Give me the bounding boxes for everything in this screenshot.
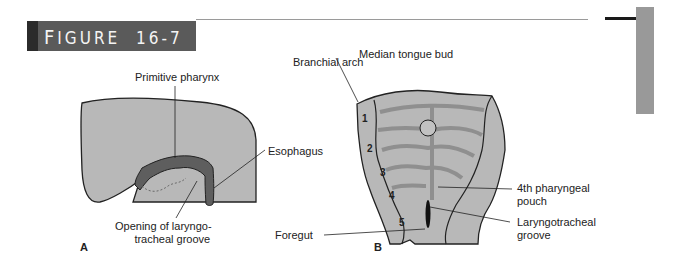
label-branchial-arch: Branchial arch	[293, 56, 363, 69]
arch-number-1: 1	[362, 113, 368, 124]
arch-number-4: 4	[389, 190, 395, 201]
arch-number-3: 3	[380, 167, 386, 178]
label-median-tongue-bud: Median tongue bud	[359, 48, 453, 61]
label-primitive-pharynx: Primitive pharynx	[135, 71, 219, 84]
panel-a-drawing	[81, 86, 265, 218]
arch-number-2: 2	[367, 143, 373, 154]
panel-b-letter: B	[374, 241, 382, 253]
label-foregut: Foregut	[275, 229, 313, 242]
panel-a-letter: A	[80, 241, 88, 253]
label-esophagus: Esophagus	[268, 145, 323, 158]
label-opening-laryngotracheal-groove: Opening of laryngo- tracheal groove	[115, 220, 212, 246]
label-laryngotracheal-groove: Laryngotracheal groove	[517, 216, 596, 242]
panel-b-drawing	[324, 58, 512, 244]
arch-number-5: 5	[399, 217, 405, 228]
label-fourth-pharyngeal-pouch: 4th pharyngeal pouch	[517, 182, 590, 208]
